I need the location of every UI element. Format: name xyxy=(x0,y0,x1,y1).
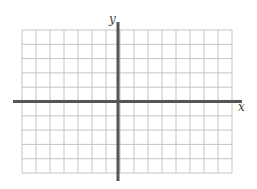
y-axis-label: y xyxy=(109,12,116,26)
x-axis-label: x xyxy=(238,100,245,114)
coordinate-plane xyxy=(0,0,257,189)
